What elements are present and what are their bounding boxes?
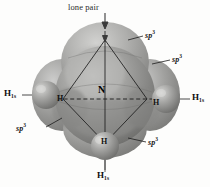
h1s-label-left: H1s <box>4 88 16 98</box>
sp3-superscript: 3 <box>152 29 155 35</box>
sp3-label-top-right: sp3 <box>145 29 155 40</box>
atom-label-h-right: H <box>153 98 160 107</box>
sp3-label-lower-right: sp3 <box>148 136 158 147</box>
atom-label-h-left: H <box>57 94 64 103</box>
lone-pair-label: lone pair <box>68 2 99 12</box>
atom-label-h-bottom: H <box>101 137 108 146</box>
sp3-superscript: 3 <box>179 53 182 59</box>
h-subscript: 1s <box>11 93 16 99</box>
sp3-label-right: sp3 <box>172 53 182 64</box>
h1s-label-bottom: H1s <box>97 170 109 180</box>
h1s-label-right: H1s <box>192 92 204 102</box>
sp3-superscript: 3 <box>23 122 26 128</box>
h-subscript: 1s <box>199 97 204 103</box>
figure-canvas: H H H lone pair N sp3 sp3 sp3 sp3 H1s H1… <box>0 0 210 187</box>
sp3-label-lower-left: sp3 <box>16 122 26 133</box>
hydrogen-sphere-left <box>32 81 60 109</box>
sp3-superscript: 3 <box>155 136 158 142</box>
nitrogen-label: N <box>98 84 105 95</box>
h-subscript: 1s <box>104 175 109 181</box>
